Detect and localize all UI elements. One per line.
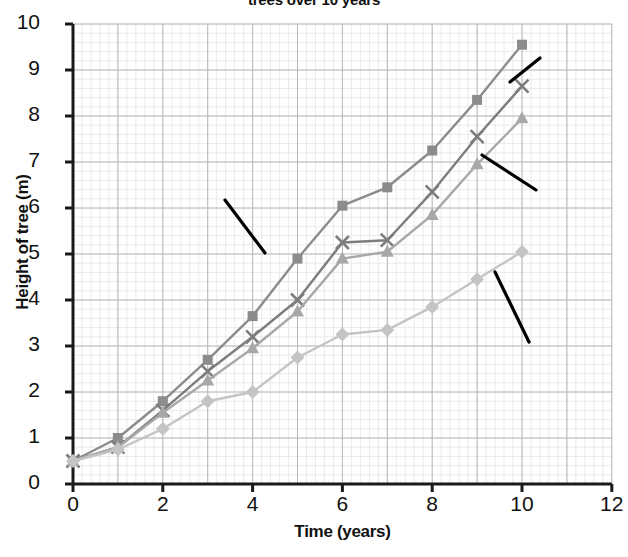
data-point-marker [427,146,437,156]
chart-container: trees over 10 years Height of tree (m) T… [0,0,628,557]
plot-area [0,0,628,557]
data-point-marker [203,355,213,365]
data-point-marker [248,311,258,321]
data-point-marker [158,396,168,406]
data-point-marker [337,201,347,211]
data-point-marker [382,182,392,192]
data-point-marker [293,254,303,264]
data-point-marker [517,40,527,50]
data-point-marker [472,95,482,105]
